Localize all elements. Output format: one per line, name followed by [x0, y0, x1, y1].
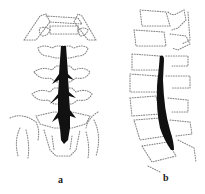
panel-b-contrast-column	[157, 56, 174, 151]
panel-a-vertebrae-outline	[10, 14, 99, 158]
panel-a-drawing	[0, 0, 205, 194]
panel-b-label: b	[163, 173, 169, 183]
panel-a-label: a	[58, 175, 63, 185]
panel-a-contrast-column	[50, 46, 76, 144]
spine-figure: a b	[0, 0, 205, 194]
